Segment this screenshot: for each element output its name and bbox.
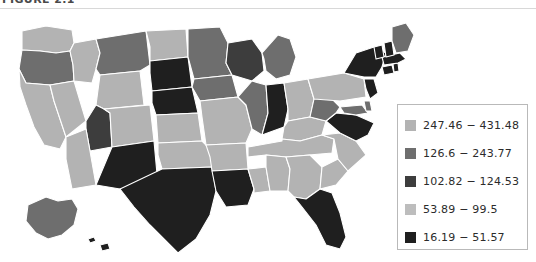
state-md[interactable] [340,105,368,115]
state-pa[interactable] [308,73,366,101]
legend-color-swatch [405,120,416,131]
legend-item[interactable]: 126.6 − 243.77 [405,139,527,167]
state-nd[interactable] [146,29,188,61]
state-ar[interactable] [206,143,248,171]
states-layer [19,23,414,253]
state-mo[interactable] [200,97,252,145]
legend-item-label: 247.46 − 431.48 [423,119,519,132]
state-fl[interactable] [294,189,346,249]
state-de[interactable] [364,101,372,111]
state-ak[interactable] [26,197,78,239]
state-or[interactable] [19,50,74,85]
state-mn[interactable] [188,27,232,79]
state-me[interactable] [392,23,414,53]
state-co[interactable] [104,105,154,147]
state-ks[interactable] [156,113,202,143]
figure-caption-text: FIGURE 2.1 [2,0,75,6]
map-legend: 247.46 − 431.48 126.6 − 243.77 102.82 − … [397,104,528,250]
state-mt[interactable] [96,31,150,75]
legend-item[interactable]: 247.46 − 431.48 [405,111,527,139]
legend-color-swatch [405,148,416,159]
state-sd[interactable] [150,57,192,91]
state-ct[interactable] [382,65,394,75]
state-la[interactable] [212,169,254,207]
state-wy[interactable] [96,71,144,109]
legend-item-label: 53.89 − 99.5 [423,203,498,216]
state-ia[interactable] [192,75,238,101]
state-vt[interactable] [374,45,384,59]
state-id[interactable] [70,39,100,83]
legend-item-label: 126.6 − 243.77 [423,147,512,160]
state-hi[interactable] [88,237,110,251]
state-wi[interactable] [226,39,264,81]
legend-item-label: 102.82 − 124.53 [423,175,519,188]
legend-item[interactable]: 16.19 − 51.57 [405,223,527,251]
state-ne[interactable] [152,87,198,115]
legend-color-swatch [405,176,416,187]
legend-item[interactable]: 53.89 − 99.5 [405,195,527,223]
legend-color-swatch [405,232,416,243]
state-ok[interactable] [158,141,212,169]
legend-item-label: 16.19 − 51.57 [423,231,505,244]
state-al[interactable] [266,155,290,191]
legend-color-swatch [405,204,416,215]
state-wa[interactable] [22,26,74,53]
state-ri[interactable] [393,63,399,72]
state-mi[interactable] [262,35,296,79]
legend-item[interactable]: 102.82 − 124.53 [405,167,527,195]
